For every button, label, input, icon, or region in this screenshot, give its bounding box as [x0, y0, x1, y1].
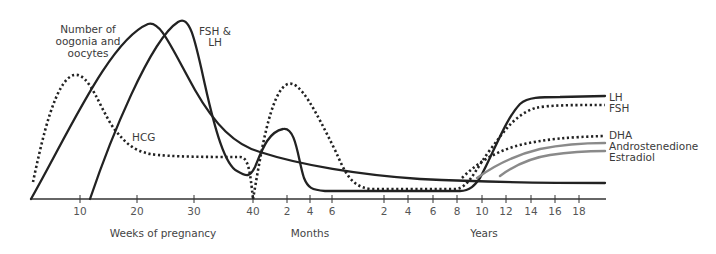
tick-label-year: 8 — [454, 205, 461, 217]
estradiol-label: Estradiol — [609, 151, 655, 163]
tick-label-month: 6 — [329, 205, 336, 217]
fsh-lh-label-line2: LH — [208, 36, 222, 48]
oogonia-label-line1: Number of — [60, 23, 116, 35]
tick-label-year: 12 — [499, 205, 512, 217]
months-axis-title: Months — [291, 227, 329, 239]
estradiol-curve — [500, 151, 605, 176]
tick-label-month: 4 — [307, 205, 314, 217]
tick-label-year: 6 — [430, 205, 437, 217]
tick-label-week: 30 — [187, 205, 200, 217]
androstenedione-curve — [477, 143, 605, 178]
tick-label-year: 16 — [548, 205, 562, 217]
tick-label-year: 4 — [405, 205, 412, 217]
years-axis-title: Years — [469, 227, 498, 239]
tick-label-week: 10 — [73, 205, 86, 217]
tick-label-week: 40 — [246, 205, 259, 217]
hormone-timeline-chart: 10 20 30 40 2 4 6 2 4 6 8 10 12 14 16 18… — [0, 0, 716, 254]
fsh-label: FSH — [609, 102, 629, 114]
tick-label-year: 18 — [572, 205, 585, 217]
hcg-label: HCG — [132, 131, 155, 143]
tick-label-month: 2 — [284, 205, 291, 217]
oogonia-label-line3: oocytes — [68, 47, 109, 59]
weeks-axis-title: Weeks of pregnancy — [110, 227, 217, 239]
oogonia-label-line2: oogonia and — [55, 35, 120, 47]
tick-label-year: 2 — [381, 205, 388, 217]
tick-label-week: 20 — [130, 205, 143, 217]
tick-label-year: 14 — [524, 205, 538, 217]
oogonia-curve — [31, 24, 605, 199]
tick-label-year: 10 — [475, 205, 488, 217]
